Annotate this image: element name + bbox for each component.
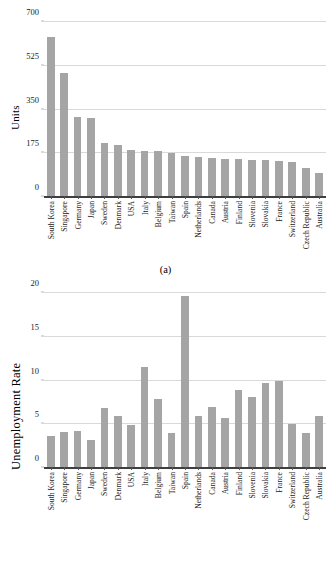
x-tick-mark [118,196,119,199]
x-label-slot: Slovenia [245,199,258,209]
bar [288,162,296,197]
bar [47,436,55,468]
bar [127,150,135,197]
y-tick-label: 525 [26,51,39,61]
x-tick-mark [252,196,253,199]
x-label-slot: Sweden [98,470,111,480]
x-label-slot: USA [125,199,138,209]
bar [275,161,283,197]
x-label-slot: Belgium [151,470,164,480]
x-label-slot: Italy [138,199,151,209]
x-tick-mark [212,196,213,199]
bar [248,397,256,468]
x-tick-mark [145,196,146,199]
bar [101,143,109,198]
bar [235,390,243,468]
x-tick-mark [306,467,307,470]
x-tick-label: France [274,201,283,222]
bar [288,424,296,468]
x-tick-label: Singapore [60,472,69,503]
bar [195,157,203,197]
y-axis-label-b: Unemployment Rate [9,363,24,470]
bar-slot [138,293,151,468]
bar [262,383,270,468]
x-label-slot: France [272,470,285,480]
x-tick-mark [185,196,186,199]
bar-slot [192,293,205,468]
bar [315,416,323,469]
panel-a-caption: (a) [0,264,331,275]
y-tick-label: 0 [35,182,39,192]
x-tick-label: Canada [207,472,216,495]
x-label-slot: Austria [218,470,231,480]
bar-slot [299,293,312,468]
bar-slot [259,22,272,197]
x-tick-mark [172,467,173,470]
bar-slot [84,22,97,197]
x-tick-mark [158,196,159,199]
bar-slot [71,22,84,197]
chart-panel-a: Units 0175350525700 South KoreaSingapore… [0,0,331,288]
x-tick-mark [212,467,213,470]
bar [235,159,243,197]
bar [47,37,55,197]
x-label-slot: Singapore [57,470,70,480]
x-label-slot: Germany [71,470,84,480]
bar-series-a [44,22,326,197]
bar-slot [286,22,299,197]
bar [208,407,216,468]
x-label-slot: Slovenia [245,470,258,480]
y-tick-label: 350 [26,95,39,105]
x-tick-mark [104,196,105,199]
x-label-slot: Netherlands [192,470,205,480]
x-label-slot: Switzerland [286,470,299,480]
x-tick-label: Austria [221,472,230,494]
bar-slot [218,293,231,468]
x-tick-mark [198,467,199,470]
bar-slot [57,293,70,468]
y-tick-label: 0 [35,453,39,463]
x-label-slot: Netherlands [192,199,205,209]
bar [127,425,135,468]
x-tick-mark [198,196,199,199]
bar [74,431,82,468]
x-tick-label: Czech Republic [301,201,310,249]
x-tick-label: Slovakia [261,472,270,499]
y-tick-label: 15 [31,322,40,332]
bar-slot [44,22,57,197]
bar-slot [312,293,325,468]
x-tick-mark [252,467,253,470]
x-tick-mark [185,467,186,470]
x-label-slot: Taiwan [165,470,178,480]
x-label-slot: South Korea [44,470,57,480]
x-tick-mark [172,196,173,199]
bar-slot [245,22,258,197]
bar [302,433,310,468]
y-tick-label: 700 [26,7,39,17]
x-tick-label: South Korea [46,201,55,239]
x-tick-label: Spain [180,201,189,218]
x-label-slot: Austria [218,199,231,209]
x-tick-mark [306,196,307,199]
bar-slot [125,22,138,197]
x-label-slot: Japan [84,199,97,209]
bar [181,156,189,198]
bar [195,416,203,469]
x-tick-label: Spain [180,472,189,489]
x-label-slot: Belgium [151,199,164,209]
bar-slot [272,293,285,468]
bar-slot [272,22,285,197]
bar-slot [111,22,124,197]
x-label-slot: Finland [232,470,245,480]
x-tick-label: Singapore [60,201,69,232]
bar [221,418,229,468]
x-tick-mark [78,467,79,470]
x-label-slot: Japan [84,470,97,480]
x-label-slot: South Korea [44,199,57,209]
plot-area-b: 05101520 [44,293,326,468]
bar-slot [178,22,191,197]
x-tick-mark [239,196,240,199]
x-tick-mark [118,467,119,470]
x-tick-mark [265,467,266,470]
x-tick-label: Slovenia [248,472,257,499]
